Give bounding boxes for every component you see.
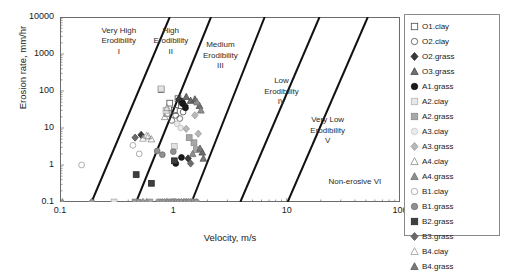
legend-marker-icon — [409, 186, 420, 197]
legend-marker-icon — [409, 51, 420, 62]
legend-item-B4-clay[interactable]: B4.clay — [409, 244, 496, 259]
legend-box: O1.clayO2.clayO2.grassO3.grassA1.grassA2… — [404, 14, 500, 236]
legend-item-A1-grass[interactable]: A1.grass — [409, 79, 496, 94]
legend-item-label: A1.grass — [422, 82, 454, 91]
series-baseline — [60, 198, 199, 202]
legend-marker-icon — [409, 201, 420, 212]
legend-item-B3-grass[interactable]: B3.grass — [409, 229, 496, 244]
legend-marker-icon — [409, 156, 420, 167]
zone-label-VI: Non-erosive VI — [315, 177, 395, 188]
legend-item-B1-grass[interactable]: B1.grass — [409, 199, 496, 214]
legend-marker-icon — [409, 111, 420, 122]
zone-label-III: Medium Erodibility III — [180, 40, 260, 72]
legend-item-label: A2.clay — [422, 97, 448, 106]
legend-item-label: A4.grass — [422, 172, 454, 181]
legend-item-label: O2.clay — [422, 37, 449, 46]
legend-marker-icon — [409, 141, 420, 152]
legend-item-O3-grass[interactable]: O3.grass — [409, 64, 496, 79]
legend-marker-icon — [409, 216, 420, 227]
legend-item-B2-grass[interactable]: B2.grass — [409, 214, 496, 229]
legend-item-label: B1.clay — [422, 187, 448, 196]
legend-marker-icon — [409, 246, 420, 257]
zone-label-V: Very Low Erodibility V — [288, 115, 368, 147]
legend-item-O2-grass[interactable]: O2.grass — [409, 49, 496, 64]
legend-item-label: A2.grass — [422, 112, 454, 121]
legend-item-label: B4.grass — [422, 262, 454, 271]
boundary-V-VI — [288, 17, 368, 202]
legend-marker-icon — [409, 81, 420, 92]
legend-marker-icon — [409, 261, 420, 272]
legend-item-A3-clay[interactable]: A3.clay — [409, 124, 496, 139]
x-tick-label: 10 — [267, 205, 307, 215]
zone-label-IV: Low Erodibility IV — [241, 76, 321, 108]
legend-item-A3-grass[interactable]: A3.grass — [409, 139, 496, 154]
legend-item-B1-clay[interactable]: B1.clay — [409, 184, 496, 199]
legend-item-A2-clay[interactable]: A2.clay — [409, 94, 496, 109]
legend-marker-icon — [409, 126, 420, 137]
x-tick-label: 1 — [153, 205, 193, 215]
legend-item-label: O3.grass — [422, 67, 454, 76]
legend-item-B4-grass[interactable]: B4.grass — [409, 259, 496, 274]
legend-item-A2-grass[interactable]: A2.grass — [409, 109, 496, 124]
legend-marker-icon — [409, 96, 420, 107]
legend-marker-icon — [409, 231, 420, 242]
legend-item-label: A4.clay — [422, 157, 448, 166]
y-axis-title: Erosion rate, mm/hr — [17, 0, 28, 138]
legend-item-label: A3.clay — [422, 127, 448, 136]
legend-marker-icon — [409, 21, 420, 32]
legend-item-label: B3.grass — [422, 232, 454, 241]
series-A3.grass — [183, 112, 201, 138]
x-tick-label: 0.1 — [40, 205, 80, 215]
legend-item-label: B1.grass — [422, 202, 454, 211]
series-B2.grass — [133, 158, 177, 186]
legend-item-A4-clay[interactable]: A4.clay — [409, 154, 496, 169]
legend-item-label: O1.clay — [422, 22, 449, 31]
y-tick-label: 1 — [0, 160, 54, 169]
legend-item-A4-grass[interactable]: A4.grass — [409, 169, 496, 184]
legend-item-O2-clay[interactable]: O2.clay — [409, 34, 496, 49]
legend-item-label: O2.grass — [422, 52, 454, 61]
legend-item-label: A3.grass — [422, 142, 454, 151]
legend-item-label: B4.clay — [422, 247, 448, 256]
legend-item-O1-clay[interactable]: O1.clay — [409, 19, 496, 34]
legend-marker-icon — [409, 171, 420, 182]
x-axis-title: Velocity, m/s — [60, 232, 400, 243]
legend-item-label: B2.grass — [422, 217, 454, 226]
series-B1.grass — [154, 148, 176, 158]
legend-marker-icon — [409, 36, 420, 47]
legend-marker-icon — [409, 66, 420, 77]
